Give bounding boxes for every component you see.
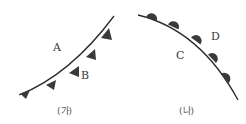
- cold-front-line: [19, 16, 114, 95]
- label-b: B: [81, 70, 89, 81]
- caption-na: (나): [179, 107, 194, 116]
- caption-ga: (가): [57, 107, 72, 116]
- warm-front-semicircles-icon: [146, 13, 230, 83]
- label-c: C: [176, 50, 184, 61]
- diagram-canvas: [0, 0, 246, 124]
- warm-front-line: [138, 15, 238, 100]
- weather-front-diagram: A B (가) C D (나): [0, 0, 246, 124]
- label-d: D: [211, 31, 220, 42]
- label-a: A: [53, 42, 61, 53]
- warm-front-panel: [138, 13, 238, 100]
- cold-front-panel: [19, 16, 114, 99]
